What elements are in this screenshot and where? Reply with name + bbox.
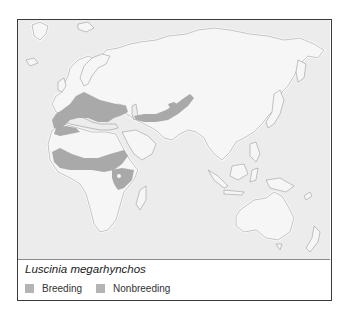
legend: Breeding Nonbreeding — [25, 283, 184, 294]
land-philippines — [250, 142, 260, 162]
map-svg — [18, 20, 330, 259]
land-sumatra — [208, 170, 228, 188]
land-new-guinea — [266, 178, 294, 192]
land-kamchatka — [296, 60, 306, 82]
map-figure: Luscinia megarhynchos Breeding Nonbreedi… — [17, 19, 332, 301]
land-tasmania — [276, 244, 282, 250]
legend-item-breeding: Breeding — [25, 283, 82, 294]
legend-label-nonbreeding: Nonbreeding — [113, 283, 170, 294]
land-svalbard — [78, 22, 94, 32]
land-pacific-islands — [304, 192, 312, 200]
species-name: Luscinia megarhynchos — [25, 263, 146, 275]
legend-label-breeding: Breeding — [42, 283, 82, 294]
legend-item-nonbreeding: Nonbreeding — [96, 283, 170, 294]
legend-swatch-nonbreeding — [96, 284, 105, 293]
range-map — [18, 20, 330, 260]
landmasses — [26, 22, 324, 252]
legend-swatch-breeding — [25, 284, 34, 293]
land-new-zealand — [306, 226, 320, 252]
land-sulawesi — [250, 168, 258, 182]
land-iceland — [26, 58, 38, 66]
land-borneo — [230, 164, 248, 180]
land-java — [224, 190, 244, 195]
lake-victoria — [117, 174, 121, 178]
land-madagascar — [136, 186, 146, 210]
